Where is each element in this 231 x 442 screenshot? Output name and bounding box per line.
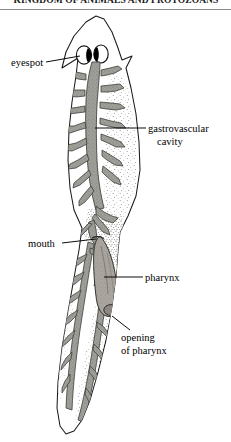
planarian-figure: eyespot gastrovascularcavity mouth phary… <box>0 10 231 442</box>
label-opening-of-pharynx-line1: opening <box>121 332 155 343</box>
label-gastrovascular-cavity-line1: gastrovascular <box>148 123 209 134</box>
running-header-text: KINGDOM OF ANIMALS AND PROTOZOANS <box>4 0 228 5</box>
label-mouth: mouth <box>28 238 55 251</box>
label-pharynx: pharynx <box>145 272 179 285</box>
planarian-illustration <box>0 10 231 442</box>
label-opening-of-pharynx: openingof pharynx <box>121 332 207 357</box>
label-gastrovascular-cavity: gastrovascularcavity <box>148 123 228 148</box>
running-header: KINGDOM OF ANIMALS AND PROTOZOANS <box>0 0 231 9</box>
label-opening-of-pharynx-line2: of pharynx <box>121 345 207 358</box>
label-gastrovascular-cavity-line2: cavity <box>148 136 228 149</box>
label-eyespot: eyespot <box>11 57 43 70</box>
figure-page: KINGDOM OF ANIMALS AND PROTOZOANS <box>0 0 231 442</box>
leader-opening-of-pharynx <box>112 316 130 330</box>
